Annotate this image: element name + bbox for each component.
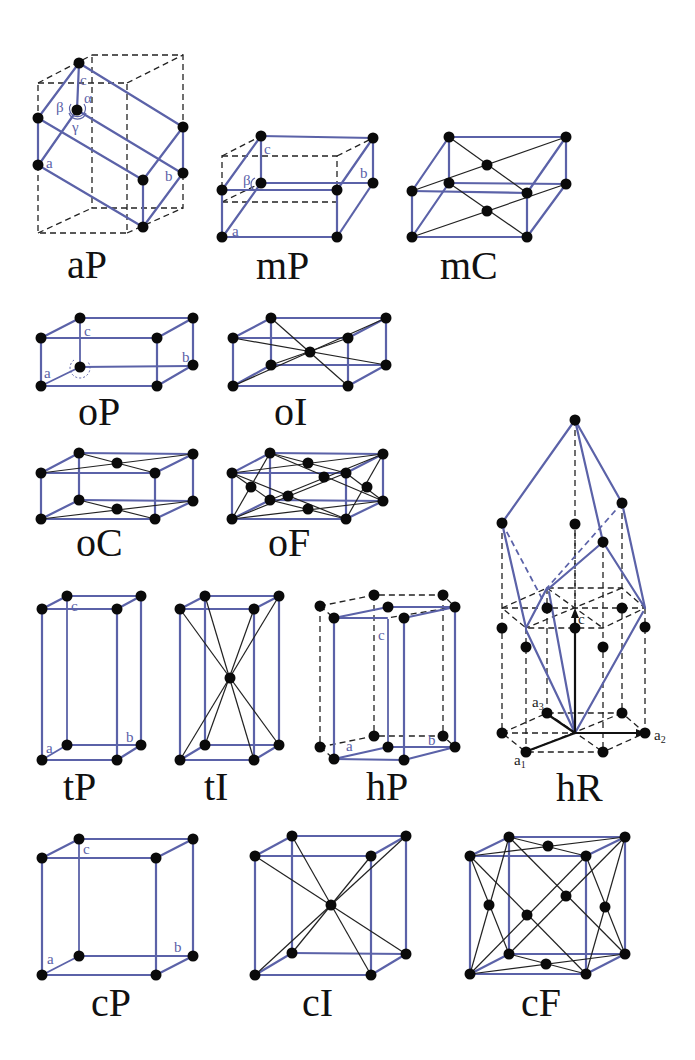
cP-atoms — [37, 834, 199, 981]
oP-cell-edges — [41, 318, 193, 386]
aP-axis-b: b — [165, 168, 173, 184]
oC-label: oC — [76, 520, 123, 565]
lattice-mC: mC — [407, 132, 572, 289]
hR-atoms — [497, 415, 651, 758]
hR-axis-a3: a3 — [532, 694, 544, 712]
mC-center-diagonals — [412, 137, 566, 237]
tI-label: tI — [204, 764, 228, 809]
cF-label: cF — [521, 980, 561, 1025]
lattice-tI: tI — [175, 591, 285, 810]
hR-rhombohedral-edges — [502, 420, 645, 733]
mP-angle-beta: β — [243, 172, 251, 188]
lattice-mP: c β b a mP — [217, 131, 379, 289]
oC-atoms — [36, 448, 199, 525]
mC-atoms — [407, 132, 572, 243]
lattice-cF: cF — [465, 832, 631, 1026]
lattice-hR: c a3 a2 a1 hR — [497, 415, 666, 811]
hR-label: hR — [556, 765, 603, 810]
mP-axis-c: c — [264, 141, 271, 157]
aP-atoms — [33, 58, 189, 233]
oF-label: oF — [268, 520, 310, 565]
aP-axis-c: c — [80, 72, 87, 88]
mP-atoms — [217, 131, 379, 243]
mP-axis-a: a — [232, 223, 239, 239]
tP-axis-b: b — [126, 729, 134, 745]
tP-label: tP — [63, 764, 96, 809]
mC-cell-edges — [412, 137, 566, 237]
lattice-tP: c b a tP — [37, 591, 147, 810]
tI-atoms — [175, 591, 285, 766]
bravais-lattice-diagram: c α β γ a b aP — [0, 0, 695, 1060]
lattice-oC: oC — [36, 448, 199, 566]
oI-atoms — [228, 313, 392, 392]
aP-label: aP — [67, 242, 107, 287]
lattice-cP: c b a cP — [37, 834, 199, 1026]
cP-label: cP — [91, 980, 131, 1025]
lattice-oI: oI — [228, 313, 392, 435]
cP-axis-a: a — [47, 951, 54, 967]
hP-label: hP — [366, 764, 408, 809]
aP-angle-gamma: γ — [71, 119, 79, 135]
aP-axis-a: a — [46, 155, 53, 171]
hP-axis-c: c — [378, 627, 385, 643]
oP-axis-c: c — [84, 323, 91, 339]
lattice-oF: oF — [227, 448, 389, 566]
oP-label: oP — [78, 389, 120, 434]
mC-label: mC — [440, 243, 498, 288]
aP-angle-alpha: α — [84, 90, 92, 106]
cP-axis-b: b — [174, 939, 182, 955]
oF-atoms — [227, 448, 389, 525]
aP-angle-beta: β — [56, 99, 64, 115]
hP-axis-b: b — [428, 732, 436, 748]
hP-axis-a: a — [346, 738, 353, 754]
mP-axis-b: b — [360, 165, 368, 181]
cI-label: cI — [302, 980, 333, 1025]
oP-axis-b: b — [182, 349, 190, 365]
oP-axis-a: a — [44, 365, 51, 381]
lattice-oP: c b a oP — [36, 313, 199, 435]
lattice-cI: cI — [250, 831, 412, 1026]
tP-axis-a: a — [46, 740, 53, 756]
hR-axis-a2: a2 — [654, 727, 666, 745]
cP-cell-edges — [42, 839, 193, 975]
mP-label: mP — [256, 243, 309, 288]
lattice-aP: c α β γ a b aP — [33, 55, 189, 287]
tP-axis-c: c — [71, 598, 78, 614]
oP-atoms — [36, 313, 199, 392]
oI-label: oI — [274, 389, 307, 434]
hR-axis-c: c — [578, 611, 585, 627]
lattice-hP: c a b hP — [315, 590, 461, 810]
aP-cell-edges — [38, 63, 183, 227]
hR-hexagonal-cell-dashed — [502, 420, 645, 752]
cP-axis-c: c — [83, 841, 90, 857]
